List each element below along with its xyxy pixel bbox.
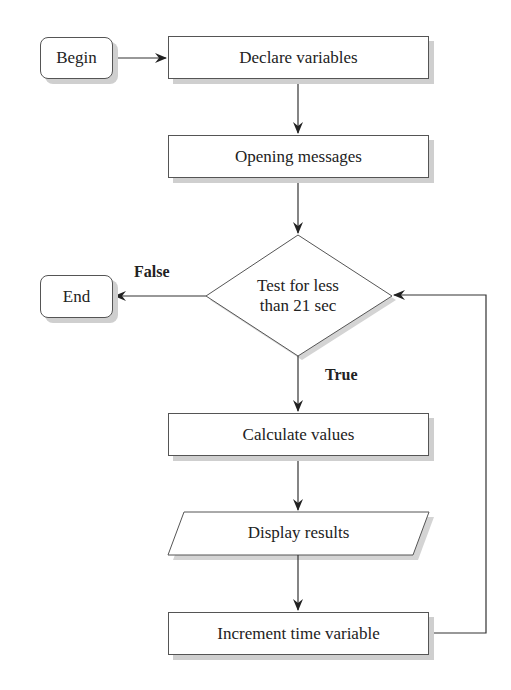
begin-node: Begin: [40, 37, 113, 79]
arrow-loop-back: [394, 295, 486, 633]
false-branch-label: False: [134, 263, 170, 281]
decision-line-2: than 21 sec: [228, 296, 368, 316]
increment-time-label: Increment time variable: [217, 624, 379, 644]
display-results-label: Display results: [248, 523, 350, 542]
declare-variables-node: Declare variables: [168, 36, 429, 79]
end-node: End: [40, 275, 113, 318]
declare-variables-label: Declare variables: [239, 48, 357, 68]
calculate-values-label: Calculate values: [243, 425, 355, 445]
opening-messages-label: Opening messages: [235, 147, 362, 167]
increment-time-node: Increment time variable: [168, 612, 429, 655]
display-results-text: Display results: [168, 523, 429, 543]
decision-text: Test for less than 21 sec: [228, 276, 368, 316]
true-branch-label: True: [325, 366, 358, 384]
begin-label: Begin: [56, 48, 97, 68]
calculate-values-node: Calculate values: [168, 413, 429, 456]
decision-line-1: Test for less: [228, 276, 368, 296]
end-label: End: [63, 287, 90, 307]
connector-lines: [0, 0, 511, 690]
opening-messages-node: Opening messages: [168, 135, 429, 178]
